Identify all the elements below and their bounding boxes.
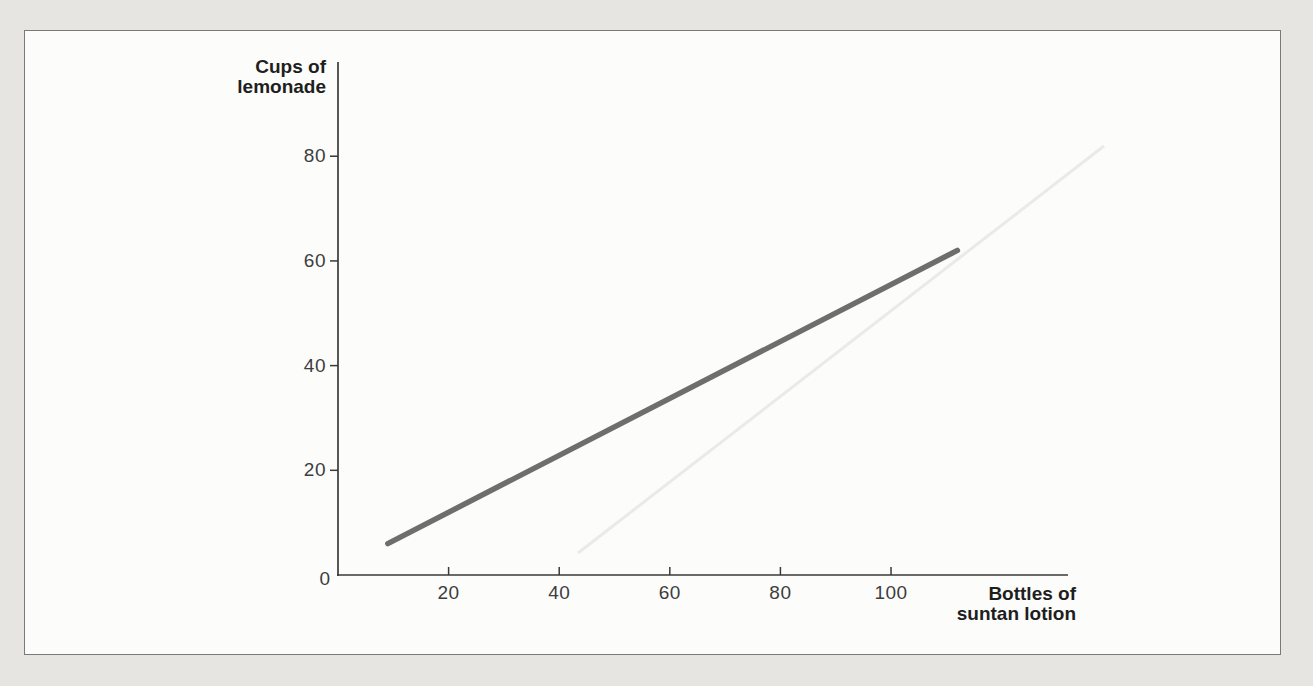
x-tick-label: 80 [769,582,791,604]
x-axis-label-line1: Bottles of [910,584,1076,604]
origin-tick-label: 0 [296,568,330,590]
figure-border-box [24,30,1281,655]
y-tick-label: 60 [266,250,326,272]
y-tick-label: 80 [266,145,326,167]
x-tick-label: 20 [438,582,460,604]
x-axis-label-line2: suntan lotion [910,604,1076,624]
scanned-page: Cups of lemonade Bottles of suntan lotio… [0,0,1313,686]
x-axis-label: Bottles of suntan lotion [910,584,1076,624]
x-tick-label: 60 [659,582,681,604]
y-axis-label: Cups of lemonade [160,57,326,97]
x-tick-label: 100 [874,582,907,604]
y-axis-label-line1: Cups of [160,57,326,77]
y-tick-label: 20 [266,459,326,481]
x-tick-label: 40 [548,582,570,604]
y-tick-label: 40 [266,355,326,377]
y-axis-label-line2: lemonade [160,77,326,97]
